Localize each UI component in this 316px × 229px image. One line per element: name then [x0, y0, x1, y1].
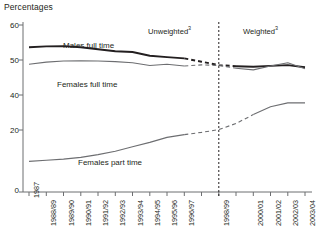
x-axis-tick-labels: 1987 1988/89 1989/90 1990/91 1991/92 199… [0, 0, 316, 229]
x-tick-label-1998-99: 1998/99 [222, 200, 231, 226]
x-tick-label-2001-02: 2001/02 [274, 200, 283, 226]
chart-container: Percentages 60 50 40 20 0 [0, 0, 316, 229]
x-tick-label-1988-89: 1988/89 [49, 200, 58, 226]
x-tick-label-1993-94: 1993/94 [136, 200, 145, 226]
x-tick-label-2000-01: 2000/01 [256, 200, 265, 226]
x-tick-label-1987: 1987 [32, 182, 41, 198]
x-tick-label-2002-03: 2002/03 [291, 200, 300, 226]
x-tick-label-1995-96: 1995/96 [170, 200, 179, 226]
x-tick-label-1991-92: 1991/92 [101, 200, 110, 226]
x-tick-label-1992-93: 1992/93 [118, 200, 127, 226]
x-tick-label-1994-95: 1994/95 [153, 200, 162, 226]
x-tick-label-1990-91: 1990/91 [84, 200, 93, 226]
x-tick-label-1989-90: 1989/90 [67, 200, 76, 226]
x-tick-label-2003-04: 2003/04 [308, 200, 316, 226]
x-tick-label-1996-97: 1996/97 [187, 200, 196, 226]
